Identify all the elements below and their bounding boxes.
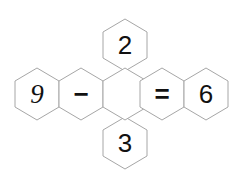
hex-label-9: 9 [15, 68, 59, 120]
hex-label-6: 6 [184, 68, 228, 120]
hex-label-equals: = [140, 68, 184, 123]
hex-label-minus: − [59, 68, 103, 123]
hex-label-2: 2 [103, 19, 147, 71]
hex-label-3: 3 [103, 117, 147, 169]
hexagon-puzzle-canvas: 9 − 2 3 = 6 [0, 0, 248, 193]
